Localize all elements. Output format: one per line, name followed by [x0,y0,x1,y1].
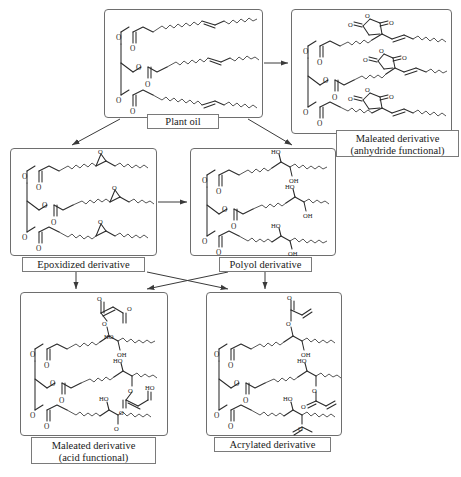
svg-text:O: O [36,183,42,192]
plant-oil-structure: O O O O O [105,10,264,119]
svg-text:O: O [332,93,338,102]
svg-text:HO: HO [297,357,307,364]
svg-text:HO: HO [271,222,281,229]
svg-text:O: O [365,86,370,93]
svg-text:O: O [228,361,234,370]
arrow-epoxidized-to-acrylated [147,272,228,289]
svg-text:O: O [145,80,151,89]
svg-text:O: O [234,379,240,388]
svg-text:O: O [102,320,107,327]
svg-text:O: O [98,218,103,225]
structure-box-plant-oil: O O O O O [104,9,263,118]
caption-polyol: Polyol derivative [219,257,312,272]
arrow-plantoil-to-polyol [248,119,292,145]
svg-text:HO: HO [283,395,293,402]
svg-text:O: O [116,96,122,105]
svg-text:O: O [98,148,103,155]
svg-text:O: O [228,422,234,431]
svg-text:O: O [112,184,117,191]
arrow-plantoil-to-epoxidized [72,119,120,145]
svg-text:O: O [348,21,353,28]
svg-text:HO: HO [271,148,281,155]
svg-text:O: O [214,350,220,359]
svg-text:O: O [202,237,208,246]
acrylated-structure: O O O O OH O O [207,293,343,437]
svg-text:O: O [222,205,228,214]
svg-text:O: O [348,95,353,102]
svg-text:O: O [114,425,119,432]
polyol-structure: O O HO OH O O HO O [191,149,337,257]
svg-text:O: O [128,387,133,394]
caption-acrylated: Acrylated derivative [214,437,331,452]
svg-text:O: O [301,403,306,410]
svg-text:O: O [379,47,384,54]
svg-text:O: O [286,320,291,327]
svg-text:HO: HO [104,333,114,340]
svg-text:O: O [243,396,249,405]
svg-text:O: O [323,76,329,85]
svg-text:O: O [303,108,309,117]
svg-text:O: O [317,119,323,128]
maleated-anhydride-structure: O O O O O [292,10,453,135]
svg-text:O: O [22,172,28,181]
svg-text:HO: HO [285,183,295,190]
caption-maleated-acid: Maleated derivative (acid functional) [31,437,156,464]
svg-text:O: O [303,47,309,56]
structure-box-maleated-acid: O O O O O HO OH O [20,292,168,436]
caption-line-1: Maleated derivative [341,133,454,145]
caption-line-2: (acid functional) [36,452,151,464]
svg-text:OH: OH [288,250,298,257]
svg-text:O: O [136,63,142,72]
svg-text:O: O [51,218,57,227]
svg-text:O: O [202,176,208,185]
caption-epoxidized: Epoxidized derivative [22,257,145,272]
svg-text:O: O [44,422,50,431]
svg-text:O: O [127,305,132,312]
svg-text:O: O [130,107,136,116]
svg-text:O: O [130,44,136,53]
svg-text:HO: HO [145,384,155,391]
svg-text:O: O [116,33,122,42]
maleated-acid-structure: O O O O O HO OH O [21,293,169,437]
svg-text:O: O [30,350,36,359]
caption-line-1: Maleated derivative [36,440,151,452]
svg-text:O: O [22,233,28,242]
epoxidized-structure: O O O O O O [11,149,158,257]
svg-text:O: O [389,93,394,100]
svg-text:O: O [97,295,102,302]
svg-text:O: O [42,201,48,210]
caption-line-2: (anhydride functional) [341,145,454,157]
svg-text:O: O [389,19,394,26]
caption-maleated-anhydride: Maleated derivative (anhydride functiona… [336,130,459,157]
svg-text:O: O [44,361,50,370]
svg-text:O: O [30,411,36,420]
svg-text:O: O [231,222,237,231]
svg-text:HO: HO [99,395,109,402]
svg-text:O: O [50,379,56,388]
svg-text:O: O [365,12,370,19]
svg-text:O: O [363,56,368,63]
svg-text:O: O [36,244,42,253]
structure-box-acrylated: O O O O OH O O [206,292,342,436]
structure-box-epoxidized: O O O O O O [10,148,157,256]
svg-text:O: O [59,396,65,405]
structure-box-polyol: O O HO OH O O HO O [190,148,336,256]
svg-text:O: O [214,411,220,420]
arrow-polyol-to-maleated-acid [147,272,228,289]
svg-text:O: O [216,187,222,196]
reaction-scheme-diagram: O O O O O [0,0,461,477]
svg-text:HO: HO [113,357,123,364]
svg-text:OH: OH [303,212,313,219]
structure-box-maleated-anhydride: O O O O O [291,9,452,134]
svg-text:O: O [216,248,222,257]
caption-plant-oil: Plant oil [147,114,219,129]
svg-text:O: O [287,294,292,301]
svg-text:O: O [317,58,323,67]
svg-text:O: O [402,54,407,61]
